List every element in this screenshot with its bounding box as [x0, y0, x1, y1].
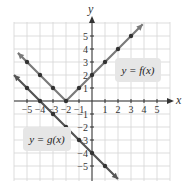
- f-label-box: y = f(x): [115, 58, 161, 82]
- data-point: [103, 60, 107, 64]
- data-point: [77, 138, 81, 142]
- svg-text:−5: −5: [77, 161, 88, 172]
- svg-text:−2: −2: [77, 122, 88, 133]
- data-point: [38, 99, 42, 103]
- data-point: [51, 86, 55, 90]
- g-label-box: y = g(x): [23, 127, 71, 151]
- svg-text:5: 5: [155, 104, 160, 115]
- y-axis-arrow-icon: [89, 16, 95, 23]
- svg-text:−2: −2: [61, 104, 72, 115]
- svg-text:2: 2: [116, 104, 121, 115]
- x-axis-label: x: [175, 93, 182, 107]
- data-point: [38, 73, 42, 77]
- data-point: [129, 34, 133, 38]
- svg-text:1: 1: [103, 104, 108, 115]
- data-point: [90, 151, 94, 155]
- x-axis-arrow-icon: [167, 98, 174, 104]
- svg-text:5: 5: [83, 31, 88, 42]
- data-point: [25, 60, 29, 64]
- data-point: [64, 99, 68, 103]
- svg-text:−4: −4: [77, 148, 88, 159]
- data-point: [51, 112, 55, 116]
- svg-text:−1: −1: [77, 109, 88, 120]
- data-point: [116, 47, 120, 51]
- data-point: [77, 86, 81, 90]
- coordinate-graph: −5−4−3−2−112345−5−4−3−2−112345 y = f(x) …: [0, 0, 184, 190]
- g-function-label: y = g(x): [28, 133, 65, 146]
- svg-text:4: 4: [142, 104, 147, 115]
- svg-text:3: 3: [83, 57, 88, 68]
- svg-text:−5: −5: [22, 104, 33, 115]
- svg-text:3: 3: [129, 104, 134, 115]
- data-point: [103, 164, 107, 168]
- svg-text:4: 4: [83, 44, 88, 55]
- data-point: [90, 73, 94, 77]
- f-function-label: y = f(x): [120, 64, 154, 77]
- y-axis-label: y: [87, 2, 94, 16]
- data-point: [25, 86, 29, 90]
